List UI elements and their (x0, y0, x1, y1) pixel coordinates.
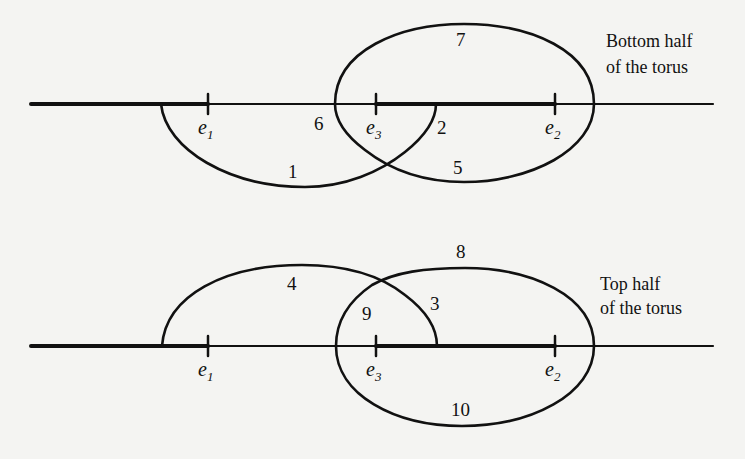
bottom-label-e2: e2 (545, 116, 561, 142)
torus-path-diagram: e1 e3 e2 1 2 5 6 7 Bottom half of the to… (0, 0, 745, 459)
path-label-5: 5 (453, 157, 463, 178)
top-label-e1: e1 (198, 358, 213, 384)
bottom-caption-line2: of the torus (606, 57, 688, 77)
top-ellipse-upper (336, 268, 594, 346)
path-label-8: 8 (456, 241, 466, 262)
path-label-1: 1 (288, 161, 298, 182)
bottom-caption-line1: Bottom half (606, 31, 693, 51)
top-label-e3: e3 (366, 358, 382, 384)
top-label-e2: e2 (545, 358, 561, 384)
top-left-arc (162, 265, 437, 346)
path-label-10: 10 (451, 399, 470, 420)
bottom-label-e3: e3 (366, 116, 382, 142)
path-label-9: 9 (362, 303, 372, 324)
path-label-4: 4 (287, 273, 297, 294)
path-label-6: 6 (314, 113, 324, 134)
path-label-7: 7 (456, 29, 466, 50)
top-caption-line1: Top half (600, 274, 660, 294)
bottom-label-e1: e1 (198, 116, 213, 142)
top-caption-line2: of the torus (600, 298, 682, 318)
path-label-3: 3 (430, 293, 440, 314)
path-label-2: 2 (437, 117, 447, 138)
